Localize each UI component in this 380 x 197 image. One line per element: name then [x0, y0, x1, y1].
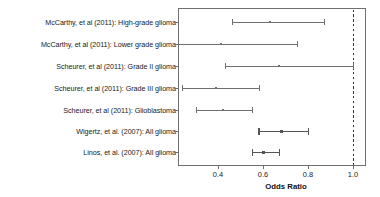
- data-point-row-0: [232, 19, 324, 25]
- forest-plot-canvas: [0, 0, 380, 197]
- data-point-row-4: [196, 107, 252, 113]
- data-point-row-3: [183, 85, 260, 91]
- data-point-row-6: [252, 149, 279, 155]
- plot-area: [0, 0, 380, 197]
- axis-tick-marks: [219, 166, 354, 170]
- data-series: [179, 19, 354, 156]
- data-point-row-1: [179, 41, 297, 47]
- plot-frame: [179, 9, 366, 166]
- data-point-row-5: [259, 128, 309, 134]
- forest-plot-figure: McCarthy, et al (2011): High-grade gliom…: [0, 0, 380, 197]
- category-tick-marks: [175, 22, 179, 153]
- data-point-row-2: [225, 63, 353, 69]
